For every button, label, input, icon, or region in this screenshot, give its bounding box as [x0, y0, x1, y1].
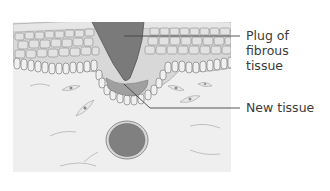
plug-label-line-1: Plug of	[246, 28, 289, 43]
new-tissue-label: New tissue	[246, 100, 314, 115]
plug-label: Plug of fibrous tissue	[246, 28, 289, 73]
plug-label-line-2: fibrous	[246, 43, 289, 58]
blood-vessel-lumen	[109, 124, 145, 157]
plug-label-line-3: tissue	[246, 58, 289, 73]
new-tissue-label-text: New tissue	[246, 100, 314, 115]
